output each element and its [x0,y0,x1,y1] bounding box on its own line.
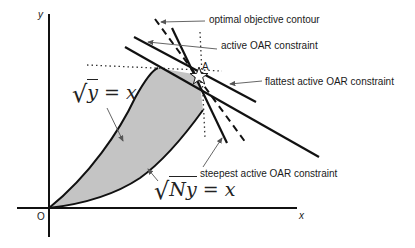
rhs: x [126,81,137,103]
radical-sign: √ [154,177,169,205]
label-optimal-objective-contour: optimal objective contour [209,14,320,26]
radicand: y [87,79,98,103]
rhs: x [225,178,236,200]
radical-sign: √ [72,80,87,108]
equation-sqrt-y: √y = x [72,80,137,108]
label-steepest-active-oar-constraint: steepest active OAR constraint [200,168,337,180]
arrow-steepest-constraint [203,138,222,167]
equals-sign: = [203,178,219,200]
equals-sign: = [104,81,120,103]
arrow-flattest-constraint [230,81,262,84]
x-axis-label: x [299,210,304,221]
label-active-oar-constraint: active OAR constraint [221,40,318,52]
origin-label: O [37,211,45,223]
radicand: Ny [169,176,196,200]
label-flattest-active-oar-constraint: flattest active OAR constraint [265,76,394,88]
diagram-svg [0,0,415,248]
arrow-optimal-contour [161,21,205,22]
y-axis-label: y [38,9,43,20]
diagram-canvas: y x O A √y = x √Ny = x optimal objective… [0,0,415,248]
equation-sqrt-ny: √Ny = x [154,177,235,205]
point-a-label: A [202,61,209,73]
